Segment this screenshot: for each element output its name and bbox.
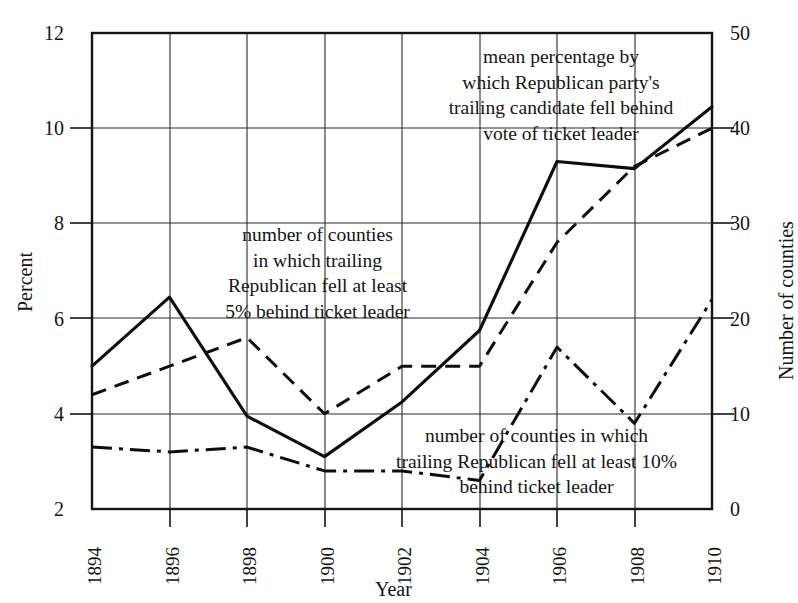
annotation-line: vote of ticket leader — [396, 121, 726, 147]
x-axis-tick-1904: 1904 — [473, 547, 492, 585]
y-axis-tick-10: 10 — [24, 118, 64, 138]
bottom-axis-ticks — [170, 509, 635, 527]
y2-axis-tick-30: 30 — [730, 213, 776, 233]
y-axis-tick-12: 12 — [24, 23, 64, 43]
annotation-counties-5pct: number of counties in which trailing Rep… — [175, 222, 460, 324]
x-axis-tick-1906: 1906 — [550, 547, 569, 585]
y2-axis-tick-20: 20 — [730, 309, 776, 329]
annotation-line: trailing Republican fell at least 10% — [364, 449, 709, 475]
left-axis-ticks — [70, 128, 92, 414]
y2-axis-tick-40: 40 — [730, 118, 776, 138]
x-axis-tick-1900: 1900 — [318, 547, 337, 585]
y-axis-tick-8: 8 — [24, 213, 64, 233]
annotation-line: in which trailing — [175, 248, 460, 274]
annotation-line: trailing candidate fell behind — [396, 95, 726, 121]
annotation-mean-percentage: mean percentage by which Republican part… — [396, 44, 726, 146]
x-axis-tick-1894: 1894 — [85, 547, 104, 585]
right-axis-ticks — [712, 128, 734, 414]
y2-axis-tick-10: 10 — [730, 404, 776, 424]
annotation-line: which Republican party's — [396, 70, 726, 96]
y2-axis-tick-50: 50 — [730, 23, 776, 43]
y-axis-tick-2: 2 — [24, 499, 64, 519]
annotation-line: 5% behind ticket leader — [175, 299, 460, 325]
annotation-line: number of counties — [175, 222, 460, 248]
y-axis-tick-6: 6 — [24, 309, 64, 329]
annotation-line: Republican fell at least — [175, 273, 460, 299]
annotation-line: number of counties in which — [364, 423, 709, 449]
x-axis-tick-1910: 1910 — [705, 547, 724, 585]
y-axis-tick-4: 4 — [24, 404, 64, 424]
annotation-line: behind ticket leader — [364, 474, 709, 500]
annotation-counties-10pct: number of counties in which trailing Rep… — [364, 423, 709, 500]
x-axis-tick-1908: 1908 — [628, 547, 647, 585]
x-axis-title: Year — [375, 578, 412, 601]
x-axis-tick-1896: 1896 — [163, 547, 182, 585]
y2-axis-title: Number of counties — [775, 221, 798, 380]
y2-axis-tick-0: 0 — [730, 499, 776, 519]
y-axis-title: Percent — [14, 252, 37, 312]
annotation-line: mean percentage by — [396, 44, 726, 70]
x-axis-tick-1898: 1898 — [240, 547, 259, 585]
